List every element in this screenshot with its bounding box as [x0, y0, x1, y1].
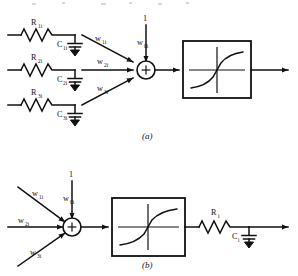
- label-w1i: w: [95, 34, 101, 43]
- branch1-ground-icon: [71, 50, 80, 56]
- label-b-w3i-sub: 3i: [37, 253, 42, 259]
- label-b-w2i-sub: 2i: [25, 221, 30, 227]
- panel-b: [8, 181, 288, 266]
- panel-a: [8, 25, 288, 126]
- panel-a-branch-1: [8, 29, 133, 62]
- label-w3i: w: [97, 84, 103, 93]
- branch3-ground-icon: [71, 120, 80, 126]
- branch3-resistor-symbol: [21, 99, 75, 111]
- label-w2i: w: [97, 57, 103, 66]
- panel-a-branch-2: [8, 64, 133, 91]
- label-w0i-a-sub: 0i: [144, 43, 149, 49]
- scan-artifacts: [32, 2, 189, 5]
- label-ri-sub: i: [218, 213, 220, 219]
- label-r2i-sub: 2i: [38, 58, 43, 64]
- label-b-w1i-sub: 1i: [39, 194, 44, 200]
- branch1-resistor-symbol: [21, 29, 75, 41]
- caption-a: (a): [142, 131, 153, 141]
- panel-a-activation-box: [183, 41, 251, 98]
- label-w0i-a: w: [137, 38, 143, 47]
- label-ri: R: [211, 208, 217, 217]
- label-c2i-sub: 2i: [63, 80, 68, 86]
- label-r2i: R: [31, 53, 37, 62]
- label-w3i-sub: 3i: [104, 89, 109, 95]
- figure-container: R 1i C 1i w 1i R 2i C 2i w 2i R 3i C 3i …: [0, 0, 298, 276]
- label-bias-value-b: 1: [69, 170, 73, 179]
- panel-b-activation-box: [112, 198, 185, 256]
- label-b-w2i: w: [18, 216, 24, 225]
- caption-b: (b): [142, 260, 153, 270]
- label-w1i-sub: 1i: [102, 39, 107, 45]
- label-w0i-b-sub: 0i: [70, 199, 75, 205]
- label-b-w3i: w: [30, 248, 36, 257]
- label-ci-sub: i: [238, 237, 240, 243]
- branch1-weight-line: [82, 35, 133, 62]
- label-c1i-sub: 1i: [63, 45, 68, 51]
- branch2-resistor-symbol: [21, 64, 75, 76]
- branch2-ground-icon: [71, 85, 80, 91]
- panel-b-weight1-line: [18, 187, 65, 222]
- label-bias-value-a: 1: [143, 14, 147, 23]
- panel-b-summing-node: [63, 218, 81, 236]
- label-r1i-sub: 1i: [38, 23, 43, 29]
- panel-b-ground-icon: [245, 242, 254, 248]
- label-w0i-b: w: [63, 194, 69, 203]
- panel-b-weight3-line: [18, 233, 65, 266]
- label-c3i-sub: 3i: [63, 115, 68, 121]
- neuron-rc-diagram: R 1i C 1i w 1i R 2i C 2i w 2i R 3i C 3i …: [0, 0, 298, 276]
- panel-a-summing-node: [137, 61, 155, 79]
- label-b-w1i: w: [32, 189, 38, 198]
- label-r1i: R: [31, 18, 37, 27]
- label-w2i-sub: 2i: [104, 62, 109, 68]
- panel-b-output-resistor-symbol: [199, 221, 249, 233]
- label-r3i-sub: 3i: [38, 93, 43, 99]
- label-r3i: R: [31, 88, 37, 97]
